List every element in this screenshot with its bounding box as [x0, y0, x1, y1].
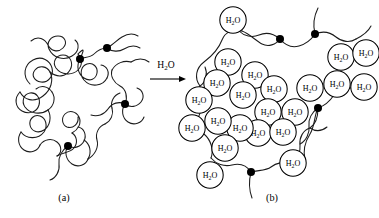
- panel-a-caption: (a): [58, 192, 69, 204]
- figure-canvas: H2OH2OH2OH2OH2OH2OH2OH2OH2OH2OH2OH2OH2OH…: [0, 0, 379, 218]
- water-molecule: H2O: [179, 115, 205, 141]
- reaction-arrow: H2O: [150, 59, 186, 82]
- chain-a-27: [112, 61, 131, 70]
- chain-a-16: [63, 112, 80, 133]
- chain-a-6: [107, 46, 140, 51]
- chain-b-2: [280, 34, 315, 47]
- chain-a-19: [84, 140, 90, 159]
- chain-a-28: [131, 59, 149, 62]
- hydrogel-swelling-figure: H2OH2OH2OH2OH2OH2OH2OH2OH2OH2OH2OH2OH2OH…: [0, 0, 379, 218]
- chain-a-10: [48, 92, 54, 110]
- water-molecule: H2O: [220, 7, 246, 33]
- chain-a-21: [88, 124, 105, 159]
- water-molecule: H2O: [280, 150, 306, 176]
- chain-b-19: [356, 26, 371, 39]
- water-molecule: H2O: [261, 76, 287, 102]
- water-molecule: H2O: [230, 82, 256, 108]
- chain-b-13: [315, 32, 356, 41]
- water-molecule: H2O: [328, 44, 354, 70]
- panel-b-water-molecules: H2OH2OH2OH2OH2OH2OH2OH2OH2OH2OH2OH2OH2OH…: [179, 7, 379, 188]
- water-molecule: H2O: [197, 162, 223, 188]
- chain-a-4: [80, 48, 107, 59]
- chain-a-0: [20, 58, 52, 100]
- crosslink-b-2: [314, 104, 322, 112]
- chain-a-9: [16, 92, 48, 113]
- crosslink-a-0: [76, 55, 84, 63]
- crosslink-b-3: [247, 168, 255, 176]
- water-molecule: H2O: [212, 135, 238, 161]
- chain-a-29: [91, 103, 125, 116]
- crosslink-a-2: [121, 100, 129, 108]
- chain-a-8: [101, 65, 108, 78]
- chain-a-26: [111, 70, 126, 104]
- chain-b-1: [242, 31, 280, 45]
- chain-a-1: [31, 36, 78, 58]
- water-molecule: H2O: [297, 75, 323, 101]
- chain-a-7: [78, 59, 107, 85]
- chain-a-12: [21, 110, 50, 138]
- crosslink-a-1: [103, 44, 111, 52]
- chain-a-23: [111, 93, 120, 108]
- water-molecule: H2O: [186, 87, 212, 113]
- chain-a-20: [50, 146, 68, 180]
- crosslink-a-3: [64, 142, 72, 150]
- crosslink-b-0: [311, 30, 319, 38]
- water-molecule: H2O: [324, 71, 350, 97]
- panel-b-caption: (b): [266, 192, 278, 204]
- water-molecule: H2O: [353, 40, 379, 66]
- crosslink-b-1: [276, 35, 284, 43]
- chain-a-22: [105, 108, 113, 124]
- reagent-label-h2o: H2O: [157, 59, 174, 72]
- water-molecule: H2O: [351, 74, 377, 100]
- water-molecule: H2O: [270, 119, 296, 145]
- chain-a-14: [40, 140, 61, 156]
- water-molecule: H2O: [205, 108, 231, 134]
- arrow-head-icon: [179, 76, 186, 82]
- chain-a-13: [19, 132, 40, 152]
